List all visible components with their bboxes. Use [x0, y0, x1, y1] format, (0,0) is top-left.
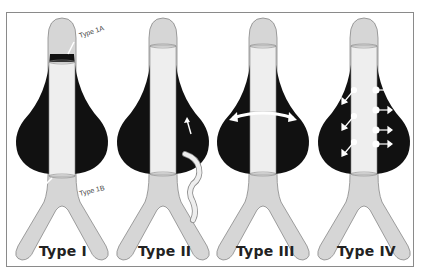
panel-type-1: Type 1A Type 1B — [16, 18, 109, 260]
type-1a-annotation: Type 1A — [78, 24, 105, 40]
endoleak-diagram: Type 1A Type 1B — [0, 0, 424, 278]
label-type-2: Type II — [138, 243, 191, 259]
stent-graft-upper — [250, 46, 276, 116]
label-type-4: Type IV — [337, 243, 396, 259]
panel-type-2 — [117, 18, 210, 260]
stent-graft — [49, 62, 75, 176]
stent-graft-lower — [250, 112, 276, 174]
panel-type-3 — [217, 18, 310, 260]
label-type-1: Type I — [39, 243, 87, 259]
type-1b-annotation: Type 1B — [79, 184, 106, 198]
panel-type-4 — [318, 18, 411, 260]
label-type-3: Type III — [236, 243, 295, 259]
stent-graft — [150, 46, 176, 174]
